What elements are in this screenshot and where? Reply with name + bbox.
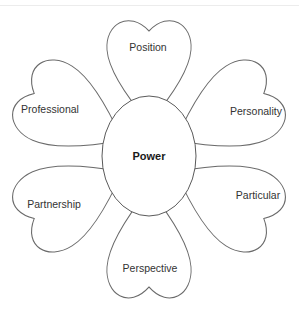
petal-label: Position: [129, 41, 167, 53]
power-flower-diagram: Power PositionPersonalityParticularPersp…: [0, 0, 299, 316]
petal-label: Personality: [230, 105, 283, 117]
petal-label: Professional: [21, 103, 79, 115]
petal-label: Particular: [236, 189, 281, 201]
petal-label: Perspective: [123, 262, 178, 274]
petal-label: Partnership: [27, 198, 81, 210]
center-label: Power: [132, 150, 166, 162]
